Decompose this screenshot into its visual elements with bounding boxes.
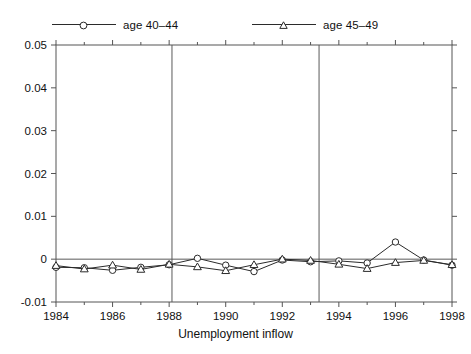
legend-label-age-45-49: age 45–49 — [323, 19, 378, 31]
x-tick-label: 1986 — [100, 310, 126, 322]
legend-label-age-40-44: age 40–44 — [123, 19, 178, 31]
x-tick-label: 1998 — [439, 310, 465, 322]
x-axis-title: Unemployment inflow — [0, 327, 471, 341]
x-tick-label: 1990 — [213, 310, 239, 322]
y-tick-label: 0.04 — [25, 82, 48, 94]
legend-key-triangle — [252, 18, 316, 32]
y-tick-label: 0.01 — [25, 210, 47, 222]
chart-plot-area: 19841986198819901992199419961998-0.0100.… — [0, 0, 471, 354]
legend-key-circle — [52, 18, 116, 32]
circle-marker-icon — [78, 20, 89, 31]
y-tick-label: 0.02 — [25, 168, 47, 180]
y-tick-label: -0.01 — [21, 296, 47, 308]
x-tick-label: 1984 — [43, 310, 69, 322]
chart-figure: age 40–44 age 45–49 19841986198819901992… — [0, 0, 471, 354]
y-tick-label: 0 — [41, 253, 47, 265]
x-tick-label: 1994 — [326, 310, 352, 322]
triangle-marker-icon — [278, 20, 289, 31]
y-tick-label: 0.03 — [25, 125, 47, 137]
x-tick-label: 1996 — [383, 310, 409, 322]
x-tick-label: 1988 — [156, 310, 182, 322]
legend-entry-age-45-49[interactable]: age 45–49 — [252, 14, 378, 36]
chart-legend: age 40–44 age 45–49 — [0, 14, 471, 36]
x-tick-label: 1992 — [269, 310, 295, 322]
legend-entry-age-40-44[interactable]: age 40–44 — [52, 14, 178, 36]
y-tick-label: 0.05 — [25, 39, 47, 51]
